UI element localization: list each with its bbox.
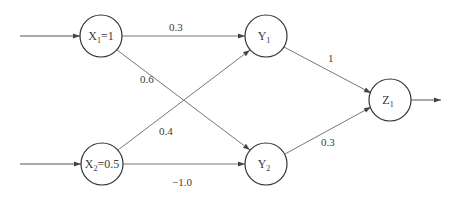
weight-label-x2-y2: −1.0 (172, 176, 192, 188)
node-x1-base: X (88, 29, 97, 43)
neural-network-diagram: 0.3 0.6 0.4 −1.0 1 0.3 X1=1 X2=0.5 Y1 Y2… (0, 0, 454, 201)
node-y2: Y2 (245, 143, 287, 185)
node-x2-value: =0.5 (97, 157, 119, 171)
node-y1-base: Y (258, 29, 267, 43)
node-z1-base: Z (382, 93, 389, 107)
node-y2-base: Y (258, 157, 267, 171)
weight-label-x1-y2: 0.6 (140, 73, 154, 85)
node-z1: Z1 (369, 79, 411, 121)
node-x2: X2=0.5 (81, 143, 123, 185)
node-x2-base: X (85, 157, 94, 171)
node-y1: Y1 (245, 15, 287, 57)
node-z1-sub: 1 (390, 100, 394, 109)
weight-label-x2-y1: 0.4 (159, 125, 173, 137)
weight-label-y2-z1: 0.3 (321, 136, 335, 148)
svg-text:X2=0.5: X2=0.5 (85, 157, 119, 173)
weight-label-x1-y1: 0.3 (169, 21, 183, 33)
node-y2-sub: 2 (266, 164, 270, 173)
node-y1-sub: 1 (266, 36, 270, 45)
weight-label-y1-z1: 1 (328, 52, 334, 64)
node-x1: X1=1 (80, 15, 122, 57)
svg-text:X1=1: X1=1 (88, 29, 113, 45)
node-x1-value: =1 (101, 29, 114, 43)
